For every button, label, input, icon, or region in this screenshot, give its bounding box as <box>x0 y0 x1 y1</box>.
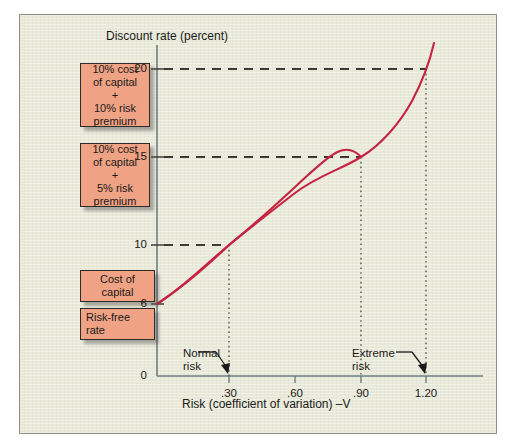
y-axis-title: Discount rate (percent) <box>106 29 228 43</box>
x-tick-label-060: .60 <box>275 387 315 399</box>
callout-box-risk-free-rate[interactable]: Risk-free rate <box>80 308 155 340</box>
x-tick-label-120: 1.20 <box>406 387 446 399</box>
y-tick-label-20: 20 <box>123 62 147 74</box>
callout-line: premium <box>94 115 137 128</box>
annotation-word: risk <box>352 360 395 373</box>
callout-line: of capital <box>93 76 137 89</box>
callout-line: Risk-free <box>86 311 130 324</box>
figure-root: 10% cost of capital + 10% risk premium 1… <box>0 0 514 447</box>
annotation-word: risk <box>183 360 220 373</box>
annotation-line: Normalrisk <box>183 347 220 373</box>
normal-risk-arrowhead <box>221 363 230 374</box>
callout-line: 10% risk <box>94 102 136 115</box>
dashed-guide-lines <box>164 69 426 245</box>
y-tick-label-6: 6 <box>123 297 147 309</box>
annotation-extreme-risk: Extremerisk <box>352 347 395 373</box>
chart-panel: 10% cost of capital + 10% risk premium 1… <box>19 14 497 434</box>
x-tick-label-090: .90 <box>341 387 381 399</box>
callout-line: Cost of <box>100 273 135 286</box>
annotation-line: Extremerisk <box>352 347 395 373</box>
callout-line: rate <box>86 324 105 337</box>
y-tick-label-15: 15 <box>123 150 147 162</box>
annotation-normal-risk: Normalrisk <box>183 347 220 373</box>
y-tick-label-10: 10 <box>123 238 147 250</box>
callout-line: 5% risk <box>97 182 133 195</box>
x-axis-title: Risk (coefficient of variation) –V <box>182 397 351 411</box>
curve-visible <box>157 43 434 304</box>
y-tick-label-0: 0 <box>123 369 147 381</box>
callout-line: + <box>112 169 118 182</box>
callout-line: premium <box>94 195 137 208</box>
annotation-word: Normal <box>183 347 220 360</box>
x-tick-label-030: .30 <box>209 387 249 399</box>
x-tick-marks <box>229 376 426 383</box>
callout-line: + <box>112 89 118 102</box>
annotation-word: Extreme <box>352 347 395 360</box>
